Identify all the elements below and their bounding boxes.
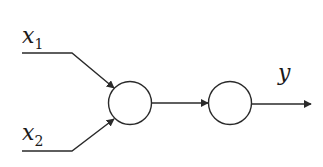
hidden-neuron-node xyxy=(109,82,152,125)
input-label-x2: x2 xyxy=(22,120,43,149)
output-neuron-node xyxy=(209,82,252,125)
network-diagram: x1 x2 y xyxy=(0,0,323,167)
input-label-x1: x1 xyxy=(22,23,43,52)
output-label-y: y xyxy=(277,60,291,85)
edge-x1-to-hidden-arrow xyxy=(22,53,114,88)
diagram-canvas: x1 x2 y xyxy=(0,0,323,167)
